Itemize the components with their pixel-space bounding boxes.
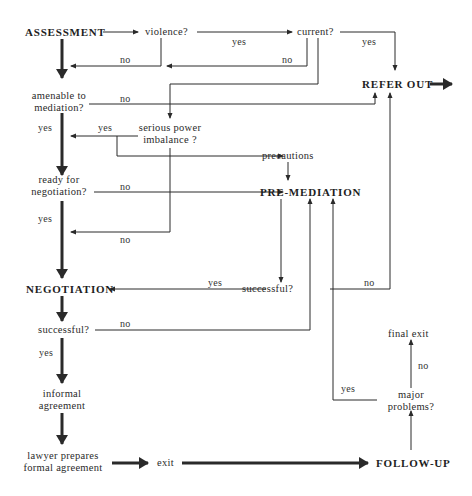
node-ready-line2: negotiation? bbox=[31, 186, 87, 198]
edge-ready-yes: yes bbox=[38, 213, 52, 225]
node-assessment: ASSESSMENT bbox=[25, 26, 106, 38]
node-amenable-line1: amenable to bbox=[32, 90, 86, 102]
edge-premediation-yes: yes bbox=[208, 277, 222, 289]
node-negotiation-successful: successful? bbox=[38, 324, 89, 336]
edge-premediation-no: no bbox=[364, 277, 375, 289]
node-major-line1: major bbox=[398, 389, 424, 401]
edge-amenable-no: no bbox=[120, 93, 131, 105]
node-violence: violence? bbox=[145, 26, 188, 38]
node-major-line2: problems? bbox=[388, 401, 434, 413]
node-premediation-successful: successful? bbox=[242, 283, 293, 295]
node-exit: exit bbox=[157, 457, 174, 469]
node-pre-mediation: PRE-MEDIATION bbox=[260, 186, 361, 198]
edge-power-yes: yes bbox=[98, 122, 112, 134]
edge-negotiation-no: no bbox=[120, 318, 131, 330]
node-follow-up: FOLLOW-UP bbox=[376, 457, 451, 469]
node-refer-out: REFER OUT bbox=[362, 78, 433, 90]
node-power-line2: imbalance ? bbox=[143, 134, 197, 146]
node-informal-line1: informal bbox=[43, 388, 82, 400]
node-amenable-line2: mediation? bbox=[34, 102, 84, 114]
edge-violence-yes: yes bbox=[232, 36, 246, 48]
node-lawyer-line1: lawyer prepares bbox=[27, 450, 98, 462]
node-informal-line2: agreement bbox=[39, 400, 85, 412]
mediation-process-flowchart: ASSESSMENT violence? current? REFER OUT … bbox=[0, 0, 472, 496]
edge-violence-no: no bbox=[120, 54, 131, 66]
edge-ready-no: no bbox=[120, 181, 131, 193]
node-ready-line1: ready for bbox=[39, 174, 80, 186]
edge-negotiation-yes: yes bbox=[39, 347, 53, 359]
node-precautions: precautions bbox=[262, 150, 314, 162]
edge-amenable-yes: yes bbox=[38, 122, 52, 134]
edge-major-no: no bbox=[418, 360, 429, 372]
edge-power-no: no bbox=[120, 234, 131, 246]
node-current: current? bbox=[297, 26, 334, 38]
node-final-exit: final exit bbox=[388, 328, 429, 340]
edge-current-yes: yes bbox=[362, 36, 376, 48]
node-power-line1: serious power bbox=[139, 122, 202, 134]
node-negotiation: NEGOTIATION bbox=[26, 283, 114, 295]
node-lawyer-line2: formal agreement bbox=[23, 462, 102, 474]
edge-current-no: no bbox=[282, 54, 293, 66]
flowchart-connectors bbox=[0, 0, 472, 496]
edge-major-yes: yes bbox=[341, 383, 355, 395]
